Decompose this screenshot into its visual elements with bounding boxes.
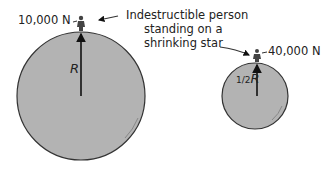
small-force-label: 40,000 N bbox=[268, 45, 321, 58]
caption-line1: Indestructible person bbox=[126, 9, 248, 22]
person-icon-large bbox=[77, 16, 85, 31]
large-force-label: 10,000 N bbox=[18, 14, 71, 27]
small-radius-label: 1/2R bbox=[236, 72, 260, 87]
radius-variable: R bbox=[250, 71, 259, 86]
caption-line2: standing on a bbox=[144, 23, 223, 36]
large-radius-label: R bbox=[70, 62, 79, 75]
caption-line3: shrinking star bbox=[144, 37, 223, 50]
radius-fraction: 1/2 bbox=[236, 75, 250, 85]
person-icon-small bbox=[253, 49, 261, 62]
